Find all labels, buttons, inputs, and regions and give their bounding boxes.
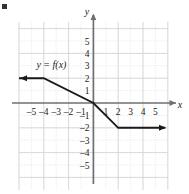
svg-text:–3: –3 [50, 107, 61, 117]
axis-arrowheads [91, 14, 177, 106]
x-axis-label: x [177, 99, 183, 110]
svg-text:3: 3 [128, 107, 133, 117]
svg-text:4: 4 [85, 49, 90, 59]
svg-text:5: 5 [153, 107, 158, 117]
svg-text:2: 2 [116, 107, 121, 117]
svg-text:–1: –1 [79, 111, 90, 121]
svg-text:–5: –5 [79, 161, 90, 171]
curve-right-arrow-icon [159, 125, 166, 131]
function-label: y = f(x) [35, 59, 67, 71]
svg-text:–4: –4 [38, 107, 49, 117]
y-axis-arrow-icon [91, 14, 97, 21]
curve-left-arrow-icon [20, 75, 27, 81]
y-axis-label: y [84, 6, 90, 17]
svg-text:–5: –5 [26, 107, 37, 117]
svg-text:–4: –4 [79, 148, 90, 158]
axis-lines [12, 15, 176, 184]
x-axis-tick-labels: –5 –4 –3 –2 –1 1 2 3 4 5 [26, 107, 158, 117]
svg-text:–2: –2 [63, 107, 74, 117]
graph-figure: –5 –4 –3 –2 –1 1 2 3 4 5 5 4 3 2 1 –1 –2… [0, 0, 189, 194]
svg-text:–3: –3 [79, 136, 90, 146]
x-axis-arrow-icon [170, 100, 177, 106]
svg-text:1: 1 [85, 86, 90, 96]
svg-text:–2: –2 [79, 123, 90, 133]
svg-text:3: 3 [85, 61, 90, 71]
svg-text:2: 2 [85, 74, 90, 84]
svg-text:5: 5 [85, 37, 90, 47]
svg-text:4: 4 [141, 107, 146, 117]
figure-container: –5 –4 –3 –2 –1 1 2 3 4 5 5 4 3 2 1 –1 –2… [0, 0, 189, 194]
